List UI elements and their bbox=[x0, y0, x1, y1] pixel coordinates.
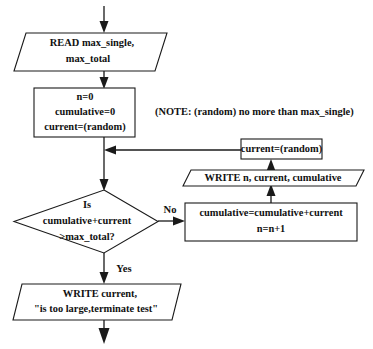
flowchart-canvas: READ max_single, max_total n=0 cumulativ… bbox=[0, 0, 373, 349]
note-text: (NOTE: (random) no more than max_single) bbox=[155, 106, 354, 118]
initialize-line2: cumulative=0 bbox=[55, 106, 115, 117]
edge-label-no: No bbox=[164, 204, 177, 215]
new-random-line1: current=(random) bbox=[241, 143, 322, 155]
node-initialize[interactable]: n=0 cumulative=0 current=(random) bbox=[34, 88, 135, 137]
edge-entry-to-read bbox=[100, 6, 109, 33]
accumulate-line2: n=n+1 bbox=[257, 223, 286, 234]
edge-decision-yes bbox=[100, 253, 109, 284]
edge-accumulate-to-write-trace bbox=[267, 184, 276, 203]
note-annotation: (NOTE: (random) no more than max_single) bbox=[155, 106, 354, 118]
node-decision[interactable]: Is cumulative+current >max_total? bbox=[14, 190, 158, 253]
accumulate-line1: cumulative=cumulative+current bbox=[199, 207, 343, 218]
node-write-terminate[interactable]: WRITE current, "is too large,terminate t… bbox=[13, 284, 181, 320]
initialize-line1: n=0 bbox=[77, 91, 94, 102]
node-new-random[interactable]: current=(random) bbox=[241, 139, 322, 159]
edge-label-yes: Yes bbox=[116, 263, 131, 274]
decision-line2: cumulative+current bbox=[43, 215, 132, 226]
read-input-line2: max_total bbox=[66, 53, 111, 64]
write-terminate-line2: "is too large,terminate test" bbox=[34, 303, 158, 314]
edge-initialize-to-decision bbox=[100, 137, 109, 191]
write-terminate-line1: WRITE current, bbox=[63, 288, 138, 299]
edge-write-trace-to-new-random bbox=[267, 159, 276, 171]
flowchart-svg: READ max_single, max_total n=0 cumulativ… bbox=[0, 0, 373, 349]
edge-decision-no bbox=[158, 217, 185, 226]
edge-exit bbox=[99, 320, 110, 344]
read-input-line1: READ max_single, bbox=[50, 37, 135, 48]
decision-line3: >max_total? bbox=[59, 231, 115, 242]
node-read-input[interactable]: READ max_single, max_total bbox=[14, 33, 167, 71]
node-write-trace[interactable]: WRITE n, current, cumulative bbox=[183, 170, 364, 186]
decision-line1: Is bbox=[83, 199, 91, 210]
write-trace-line1: WRITE n, current, cumulative bbox=[205, 172, 342, 183]
initialize-line3: current=(random) bbox=[44, 121, 125, 133]
node-accumulate[interactable]: cumulative=cumulative+current n=n+1 bbox=[185, 203, 357, 241]
edge-read-to-initialize bbox=[100, 71, 109, 89]
edge-loop-return bbox=[104, 146, 241, 155]
